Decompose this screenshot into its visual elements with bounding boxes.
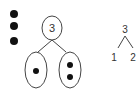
number-bond-diagram: 3 3 1 2 (0, 0, 140, 92)
part-dot (67, 62, 73, 68)
bond-line-right (52, 40, 66, 52)
numeric-bond: 3 1 2 (111, 24, 136, 63)
counters (10, 10, 18, 45)
bond-line-left (38, 40, 52, 52)
part-dot (33, 68, 39, 74)
part-dot (67, 74, 73, 80)
numeric-part-left: 1 (111, 52, 117, 63)
counter-dot (10, 10, 18, 18)
counter-dot (10, 37, 18, 45)
pictorial-bond: 3 (25, 16, 81, 88)
numeric-line-right (125, 36, 133, 48)
numeric-line-left (118, 36, 125, 48)
numeric-whole: 3 (122, 24, 128, 35)
part-oval-right (59, 52, 81, 88)
whole-oval-number: 3 (49, 22, 55, 34)
counter-dot (10, 22, 18, 30)
numeric-part-right: 2 (130, 52, 136, 63)
